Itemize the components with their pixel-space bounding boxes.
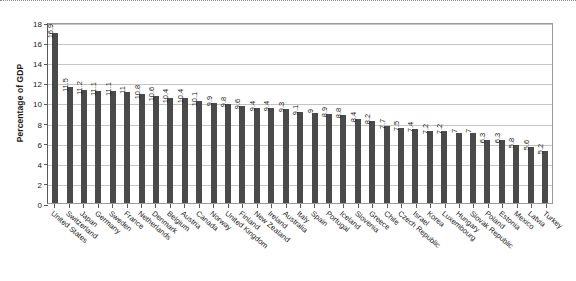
bar-group: 9.1 [293, 24, 307, 203]
x-axis-tick [459, 204, 460, 208]
bar: 5.8 [513, 145, 519, 203]
y-axis-tick-label: 4 [38, 160, 48, 169]
bar: 7.5 [398, 128, 404, 203]
bar: 11.2 [81, 90, 87, 203]
bar: 8.4 [355, 119, 361, 203]
bar-group: 11.2 [77, 24, 91, 203]
chart-figure: Percentage of GDP 024681012141618 16.911… [0, 0, 576, 281]
y-axis-tick-label: 8 [38, 120, 48, 129]
x-axis-tick [170, 204, 171, 208]
bar: 7.4 [412, 129, 418, 203]
bar-group: 9.4 [264, 24, 278, 203]
x-axis-tick [329, 204, 330, 208]
x-axis-tick [488, 204, 489, 208]
bar: 7.2 [441, 131, 447, 203]
bar-value-label: 5.8 [507, 137, 516, 147]
bar-group: 9.4 [250, 24, 264, 203]
bar: 5.2 [542, 151, 548, 203]
y-axis-tick-label: 2 [38, 180, 48, 189]
bar-value-label: 10.8 [133, 85, 142, 100]
bar: 9 [312, 113, 318, 204]
x-axis-tick [242, 204, 243, 208]
x-axis-tick [546, 204, 547, 208]
bar: 11.1 [110, 91, 116, 203]
bar-value-label: 11.1 [104, 82, 113, 96]
bar-group: 5.6 [523, 24, 537, 203]
plot-area: 024681012141618 16.911.511.211.111.11110… [47, 23, 553, 204]
x-axis-tick [531, 204, 532, 208]
bar-group: 10.8 [134, 24, 148, 203]
x-axis-tick [184, 204, 185, 208]
x-axis-tick [343, 204, 344, 208]
x-axis-tick [517, 204, 518, 208]
y-axis-tick-label: 6 [38, 140, 48, 149]
bar: 9.1 [297, 112, 303, 204]
bar-group: 16.9 [48, 24, 62, 203]
x-axis-tick [372, 204, 373, 208]
bar: 11 [124, 92, 130, 203]
bar-group: 6.3 [480, 24, 494, 203]
bar-group: 9.6 [235, 24, 249, 203]
y-axis-title: Percentage of GDP [10, 1, 30, 204]
bar-value-label: 9.4 [262, 101, 271, 111]
bar-value-label: 9 [306, 108, 315, 112]
bar-group: 7.2 [437, 24, 451, 203]
x-axis-tick [271, 204, 272, 208]
bar: 9.4 [268, 108, 274, 203]
bar-value-label: 8.4 [349, 111, 358, 121]
x-axis-tick [502, 204, 503, 208]
x-axis-tick [155, 204, 156, 208]
bar-value-label: 7.4 [406, 121, 415, 131]
bar-group: 10.4 [163, 24, 177, 203]
bar: 8.8 [340, 115, 346, 203]
bar-group: 11 [120, 24, 134, 203]
bar: 7.7 [384, 126, 390, 203]
x-axis-tick [199, 204, 200, 208]
bar: 16.9 [52, 33, 58, 203]
bar-value-label: 7.2 [421, 123, 430, 133]
bar-group: 5.8 [509, 24, 523, 203]
bar-value-label: 6.3 [478, 132, 487, 142]
bar-value-label: 10.4 [161, 89, 170, 104]
bar-value-label: 10.4 [176, 89, 185, 104]
x-axis-tick [98, 204, 99, 208]
bar-value-label: 9.6 [233, 99, 242, 109]
bar: 9.9 [211, 103, 217, 203]
x-axis-tick [401, 204, 402, 208]
bar-value-label: 11.2 [75, 81, 84, 95]
bar-value-label: 11 [118, 86, 127, 94]
y-axis-tick-label: 12 [33, 80, 48, 89]
bar-value-label: 9.3 [277, 102, 286, 112]
x-axis-tick [54, 204, 55, 208]
bar: 11.5 [67, 87, 73, 203]
bar-value-label: 7.7 [378, 118, 387, 128]
bar-value-label: 10.6 [147, 87, 156, 102]
bar-group: 9.8 [221, 24, 235, 203]
bar-group: 11.1 [106, 24, 120, 203]
bar-group: 8.2 [365, 24, 379, 203]
bar-value-label: 8.9 [320, 106, 329, 116]
bar: 5.6 [528, 147, 534, 203]
bar: 10.1 [196, 101, 202, 203]
bar-value-label: 9.8 [219, 97, 228, 107]
bar: 8.9 [326, 114, 332, 203]
bar-group: 5.2 [538, 24, 552, 203]
bar-group: 6.3 [495, 24, 509, 203]
x-axis-tick [416, 204, 417, 208]
bar: 7.2 [427, 131, 433, 203]
bar-group: 7 [451, 24, 465, 203]
x-axis-tick [257, 204, 258, 208]
bar-group: 9.9 [206, 24, 220, 203]
bar-value-label: 7.2 [435, 123, 444, 133]
x-axis-tick [430, 204, 431, 208]
bar: 9.4 [254, 108, 260, 203]
bar-group: 10.6 [149, 24, 163, 203]
bar: 10.6 [153, 96, 159, 203]
bar-value-label: 6.3 [493, 132, 502, 142]
bar-value-label: 11.5 [61, 78, 70, 92]
bar-value-label: 9.4 [248, 101, 257, 111]
bar-group: 7.7 [379, 24, 393, 203]
x-axis-tick [141, 204, 142, 208]
x-axis-tick [228, 204, 229, 208]
bar-value-label: 8.2 [363, 113, 372, 123]
